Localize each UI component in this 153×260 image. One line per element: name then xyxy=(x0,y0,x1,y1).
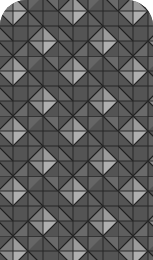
pattern-fill xyxy=(0,0,153,260)
diamond-tile-pattern xyxy=(0,0,153,260)
patterned-panel xyxy=(0,0,153,260)
